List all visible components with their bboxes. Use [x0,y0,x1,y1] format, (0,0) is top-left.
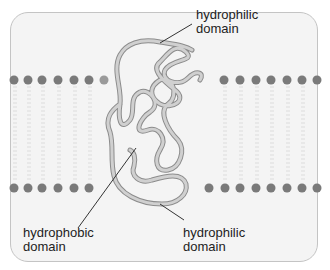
label-line: domain [183,240,245,254]
label-line: hydrophilic [196,8,258,22]
label-hydrophobic-domain: hydrophobic domain [23,226,94,254]
label-line: domain [196,22,258,36]
label-line: hydrophilic [183,226,245,240]
protein-strand [108,41,202,204]
bottom-leaflet-heads [10,184,322,193]
label-top-hydrophilic-domain: hydrophilic domain [196,8,258,36]
label-line: domain [23,240,94,254]
leader-top-hydrophilic [160,24,192,43]
leader-bottom-hydrophilic [160,204,184,220]
label-line: hydrophobic [23,226,94,240]
label-bottom-hydrophilic-domain: hydrophilic domain [183,226,245,254]
